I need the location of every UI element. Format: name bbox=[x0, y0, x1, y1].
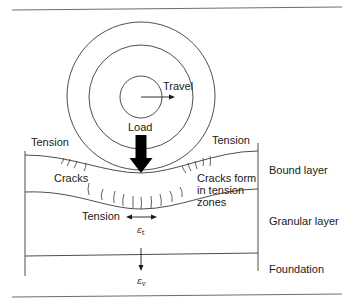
travel-arrow-icon bbox=[141, 95, 175, 100]
load-arrow-icon bbox=[130, 135, 153, 173]
cracks-form-label-line3: zones bbox=[197, 196, 227, 208]
tension-left-label: Tension bbox=[31, 136, 69, 148]
vertical-strain-symbol: εv bbox=[137, 276, 146, 288]
layer-label-foundation: Foundation bbox=[269, 263, 324, 275]
foundation-line bbox=[25, 253, 258, 256]
tensile-strain-arrow-icon bbox=[126, 215, 157, 220]
bottom-rule bbox=[12, 294, 342, 297]
load-label: Load bbox=[128, 121, 152, 133]
cracks-form-label-line1: Cracks form bbox=[197, 172, 256, 184]
cracks-form-label-line2: in tension bbox=[197, 184, 244, 196]
tension-right-label: Tension bbox=[212, 134, 250, 146]
tension-bottom-label: Tension bbox=[82, 210, 120, 222]
tensile-strain-symbol: εt bbox=[137, 225, 145, 237]
vertical-strain-arrow-icon bbox=[139, 248, 144, 271]
layer-label-bound: Bound layer bbox=[269, 164, 328, 176]
layer-label-granular: Granular layer bbox=[269, 215, 339, 227]
travel-label: Travel bbox=[163, 80, 193, 92]
pavement-loading-diagram: Travel Load bbox=[0, 0, 352, 304]
top-rule bbox=[12, 7, 342, 10]
cracks-label: Cracks bbox=[54, 172, 89, 184]
